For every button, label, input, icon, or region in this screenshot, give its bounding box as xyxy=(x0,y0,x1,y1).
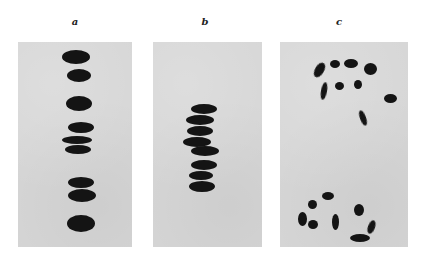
chromosome xyxy=(332,214,339,230)
chromosome xyxy=(384,94,397,103)
chromosome xyxy=(366,219,377,235)
chromosome xyxy=(350,234,370,242)
chromosome xyxy=(68,122,94,133)
chromosome xyxy=(189,171,213,180)
chromosome xyxy=(62,136,92,144)
chromosome xyxy=(298,212,307,226)
micrograph-panel-a xyxy=(18,42,132,247)
panel-label-a: a xyxy=(65,16,85,27)
chromosome xyxy=(354,204,364,216)
panel-label-c: c xyxy=(329,16,349,27)
chromosome xyxy=(330,60,340,68)
chromosome xyxy=(186,115,214,125)
chromosome xyxy=(364,63,377,75)
chromosome xyxy=(335,82,344,90)
chromosome xyxy=(66,96,92,111)
chromosome xyxy=(65,145,91,154)
chromosome xyxy=(319,82,328,101)
micrograph-panel-c xyxy=(280,42,408,247)
chromosome xyxy=(354,80,362,89)
chromosome xyxy=(67,215,95,232)
chromosome xyxy=(191,160,217,170)
chromosome xyxy=(344,59,358,68)
chromosome xyxy=(68,177,94,188)
chromosome xyxy=(312,61,328,79)
chromosome xyxy=(308,200,317,209)
chromosome xyxy=(189,181,215,192)
chromosome xyxy=(357,109,368,126)
chromosome xyxy=(67,69,91,82)
micrograph-panel-b xyxy=(153,42,262,247)
chromosome xyxy=(191,104,217,114)
chromosome xyxy=(308,220,318,229)
chromosome xyxy=(68,189,96,202)
chromosome xyxy=(187,126,213,136)
chromosome xyxy=(191,146,219,156)
chromosome xyxy=(62,50,90,64)
panel-label-b: b xyxy=(195,16,215,27)
chromosome xyxy=(322,192,334,200)
